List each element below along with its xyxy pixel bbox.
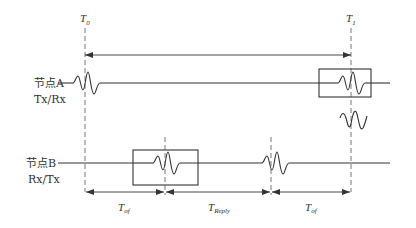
node-a-label: 节点A Tx/Rx bbox=[34, 77, 67, 106]
node-b-timeline bbox=[58, 150, 390, 185]
t0-marker: T0 bbox=[80, 12, 90, 192]
interval-treply: TReply bbox=[208, 201, 231, 215]
node-a-timeline bbox=[58, 69, 390, 97]
svg-text:Rx/Tx: Rx/Tx bbox=[28, 173, 61, 186]
timing-diagram: T0 T1 节点A Tx/Rx 节点B Rx/Tx bbox=[0, 0, 416, 228]
echo-wave bbox=[340, 111, 367, 129]
interval-tof-2: Tof bbox=[305, 201, 318, 215]
node-b-label: 节点B Rx/Tx bbox=[26, 157, 61, 186]
t1-label: T1 bbox=[346, 12, 356, 27]
interval-tof-1: Tof bbox=[118, 201, 131, 215]
svg-text:节点B: 节点B bbox=[26, 157, 56, 170]
svg-text:Tx/Rx: Tx/Rx bbox=[34, 93, 67, 106]
node-b-receive-box bbox=[133, 150, 198, 185]
t1-marker: T1 bbox=[346, 12, 356, 192]
t0-label: T0 bbox=[80, 12, 90, 27]
